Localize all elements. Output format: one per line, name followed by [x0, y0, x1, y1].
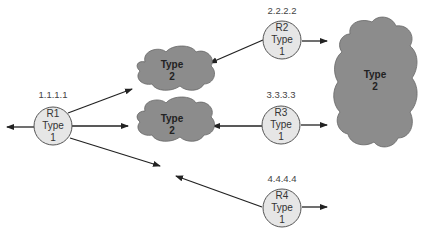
router-r1-type: Type	[42, 120, 64, 131]
router-r2-type: Type	[271, 34, 293, 45]
router-r1-type-num: 1	[50, 132, 56, 143]
cloud-large-label-2: 2	[372, 81, 378, 92]
arrow-r1-to-cloud-top	[68, 89, 132, 113]
arrow-r2-to-cloud-top	[210, 40, 263, 63]
router-r3-name: R3	[275, 107, 288, 118]
router-r2-name: R2	[276, 22, 289, 33]
router-r2-ip: 2.2.2.2	[267, 5, 296, 16]
router-r1-ip: 1.1.1.1	[38, 89, 67, 100]
cloud-middle: Type 2	[137, 97, 214, 141]
network-diagram: Type 2 Type 2 Type 2 1.1.1.1 R1 Type 1 2…	[0, 0, 422, 235]
router-r4-type: Type	[271, 202, 293, 213]
router-r3-type-num: 1	[278, 131, 284, 142]
router-r1-name: R1	[47, 108, 60, 119]
router-r4-type-num: 1	[279, 214, 285, 225]
arrow-r4-up-left	[176, 176, 262, 207]
router-r2: 2.2.2.2 R2 Type 1	[263, 5, 301, 59]
cloud-middle-label-2: 2	[169, 125, 175, 136]
cloud-large: Type 2	[334, 17, 417, 147]
cloud-large-label-1: Type	[364, 69, 387, 80]
router-r4-ip: 4.4.4.4	[267, 173, 296, 184]
router-r4: 4.4.4.4 R4 Type 1	[263, 173, 301, 227]
router-r3-type: Type	[270, 119, 292, 130]
cloud-top-label-2: 2	[169, 71, 175, 82]
cloud-middle-label-1: Type	[161, 113, 184, 124]
router-r1: 1.1.1.1 R1 Type 1	[34, 89, 72, 145]
router-r3-ip: 3.3.3.3	[266, 89, 295, 100]
cloud-top-label-1: Type	[161, 59, 184, 70]
router-r3: 3.3.3.3 R3 Type 1	[262, 89, 300, 144]
arrow-r1-down-right	[70, 138, 160, 166]
router-r4-name: R4	[276, 190, 289, 201]
cloud-top: Type 2	[137, 46, 214, 90]
router-r2-type-num: 1	[279, 46, 285, 57]
